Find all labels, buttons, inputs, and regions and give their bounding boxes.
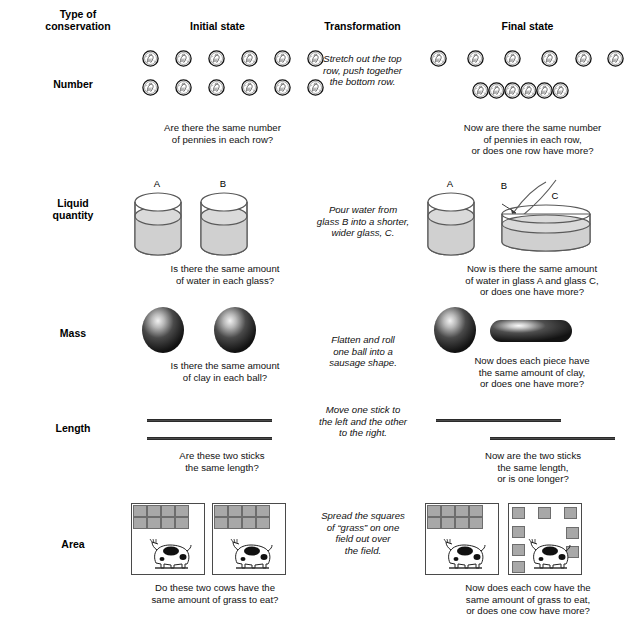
row-label-liquid-quantity: Liquid quantity [18,197,128,221]
penny [467,50,484,67]
penny [536,82,553,99]
grass-square [455,517,469,529]
row-label-line: Mass [18,327,128,339]
glass-c-final-with-pour [490,176,600,262]
caption-line: or is one longer? [438,473,628,485]
penny [142,79,159,96]
caption-line: same amount of grass to eat, [428,594,628,606]
cow-icon [525,537,573,575]
grass-square [228,517,242,529]
penny [541,50,558,67]
row-label-line: Liquid [18,197,128,209]
penny [504,50,521,67]
transform-line: Move one stick to [303,404,423,416]
caption-line: of water in glass A and glass C, [432,275,632,287]
cow-icon [440,537,488,575]
transform-line: wider glass, C. [303,227,423,239]
transform-line: Spread the squares [303,510,423,522]
grass-square [175,505,189,517]
caption-line: Now does each cow have the [428,582,628,594]
header-line-1: Type of [18,8,138,20]
row-label-line: Area [18,538,128,550]
header-initial-state: Initial state [135,20,300,32]
glass-b-initial [197,192,251,262]
number-initial-caption: Are there the same number of pennies in … [130,122,315,145]
caption-line: the same amount of clay, [432,367,632,379]
clay-ball-initial-1 [140,305,186,359]
number-final-caption: Now are there the same number of pennies… [435,122,630,157]
grass-square [441,517,455,529]
row-label-line: Length [18,422,128,434]
stick-initial-bottom [147,437,272,440]
area-final-caption: Now does each cow have the same amount o… [428,582,628,617]
row-label-mass: Mass [18,327,128,339]
penny [241,50,258,67]
transform-line: Flatten and roll [303,334,423,346]
transform-line: Pour water from [303,204,423,216]
transform-line: the left and the other [303,416,423,428]
stick-initial-top [147,419,272,422]
transform-line: to the right. [303,427,423,439]
header-type-of-conservation: Type of conservation [18,8,138,32]
stick-final-top [436,419,561,422]
caption-line: or does one have more? [432,378,632,390]
grass-square [512,561,525,573]
stick-final-bottom [490,437,615,440]
penny [241,79,258,96]
glass-b-label-initial: B [203,178,243,189]
glass-a-label-initial: A [137,178,177,189]
grass-square [455,505,469,517]
row-label-area: Area [18,538,128,550]
grass-square [512,544,525,556]
field-initial-2 [212,503,286,575]
caption-line: or does one row have more? [435,145,630,157]
glass-a-initial [131,192,185,262]
penny [175,79,192,96]
penny [208,50,225,67]
grass-square [228,505,242,517]
penny [575,50,592,67]
penny [208,79,225,96]
row-label-line: quantity [18,209,128,221]
transform-line: glass B into a shorter, [303,216,423,228]
header-transformation: Transformation [305,20,420,32]
grass-square [161,505,175,517]
liquid-final-caption: Now is there the same amount of water in… [432,263,632,298]
mass-initial-caption: Is there the same amount of clay in each… [130,360,320,383]
penny [520,82,537,99]
penny [552,82,569,99]
grass-square [441,505,455,517]
penny [488,82,505,99]
grass-square [469,517,483,529]
caption-line: Do these two cows have the [120,582,310,594]
grass-square [133,505,147,517]
grass-square [214,505,228,517]
grass-square [512,526,525,538]
length-transformation-text: Move one stick to the left and the other… [303,404,423,439]
transform-line: the bottom row. [305,76,420,88]
grass-square [242,505,256,517]
caption-line: Now are the two sticks [438,450,628,462]
length-final-caption: Now are the two sticks the same length, … [438,450,628,485]
penny [175,50,192,67]
transform-line: the field. [303,545,423,557]
penny [504,82,521,99]
grass-square [175,517,189,529]
penny [274,79,291,96]
cow-icon [227,537,275,575]
grass-square [147,505,161,517]
caption-line: Is there the same amount [130,263,320,275]
caption-line: Now is there the same amount [432,263,632,275]
transform-line: one ball into a [303,346,423,358]
grass-square [242,517,256,529]
field-final-1 [425,503,499,575]
field-final-2 [508,503,582,575]
transform-line: sausage shape. [303,357,423,369]
caption-line: or does one have more? [432,286,632,298]
caption-line: Is there the same amount [130,360,320,372]
grass-square [427,505,441,517]
area-initial-caption: Do these two cows have the same amount o… [120,582,310,605]
header-line-2: conservation [18,20,138,32]
caption-line: of pennies in each row, [435,134,630,146]
caption-line: or does one cow have more? [428,605,628,617]
